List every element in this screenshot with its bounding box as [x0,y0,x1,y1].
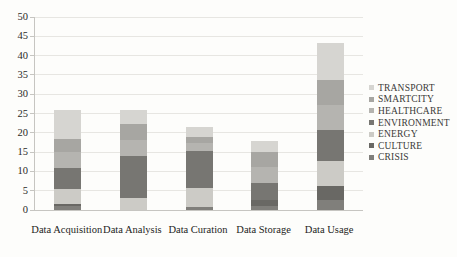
y-tick-mark-25 [30,113,34,114]
bar-segment-environment-5 [317,130,344,162]
legend-label-healthcare: HEALTHCARE [378,106,442,116]
y-axis-tick-label-5: 5 [2,186,28,196]
y-axis-tick-label-20: 20 [2,128,28,138]
y-tick-mark-20 [30,132,34,133]
y-tick-mark-45 [30,36,34,37]
legend-label-transport: TRANSPORT [378,83,435,93]
bar-segment-crisis-5 [317,200,344,210]
chart: TRANSPORTSMARTCITYHEALTHCAREENVIRONMENTE… [0,0,457,257]
y-axis-tick-label-0: 0 [2,205,28,215]
bar-segment-smartcity-5 [317,80,344,105]
bar-data-acquisition [54,110,81,210]
gridline-25 [35,113,363,114]
bar-segment-healthcare-2 [120,140,147,157]
y-tick-mark-40 [30,55,34,56]
legend-swatch-crisis [369,155,374,160]
legend-item-healthcare: HEALTHCARE [369,105,450,117]
y-tick-mark-10 [30,171,34,172]
legend-item-crisis: CRISIS [369,152,450,164]
legend-swatch-transport [369,85,374,90]
gridline-40 [35,55,363,56]
legend-swatch-environment [369,120,374,125]
bar-segment-healthcare-3 [186,143,213,151]
x-axis-label-data-usage: Data Usage [283,224,375,235]
bar-segment-culture-5 [317,186,344,200]
bar-segment-healthcare-4 [251,167,278,182]
legend-label-culture: CULTURE [378,141,422,151]
legend: TRANSPORTSMARTCITYHEALTHCAREENVIRONMENTE… [369,82,450,163]
bar-segment-healthcare-1 [54,152,81,167]
bar-segment-transport-2 [120,110,147,124]
gridline-45 [35,36,363,37]
legend-item-energy: ENERGY [369,128,450,140]
plot-area [34,17,363,211]
bar-segment-transport-4 [251,141,278,152]
y-axis-tick-label-35: 35 [2,70,28,80]
bar-segment-smartcity-2 [120,124,147,140]
bar-segment-crisis-1 [54,206,81,210]
gridline-35 [35,74,363,75]
legend-label-crisis: CRISIS [378,152,409,162]
bar-segment-transport-1 [54,110,81,139]
gridline-30 [35,94,363,95]
legend-item-environment: ENVIRONMENT [369,117,450,129]
bar-segment-healthcare-5 [317,105,344,130]
legend-item-smartcity: SMARTCITY [369,94,450,106]
legend-swatch-smartcity [369,97,374,102]
legend-label-environment: ENVIRONMENT [378,118,450,128]
y-axis-tick-label-50: 50 [2,12,28,22]
bar-data-usage [317,43,344,210]
gridline-50 [35,17,363,18]
bar-segment-energy-1 [54,189,81,204]
y-tick-mark-50 [30,17,34,18]
bar-segment-energy-5 [317,161,344,186]
bar-data-curation [186,127,213,210]
bar-segment-environment-1 [54,168,81,189]
bar-segment-energy-3 [186,188,213,207]
bar-segment-smartcity-4 [251,152,278,167]
legend-item-culture: CULTURE [369,140,450,152]
y-tick-mark-15 [30,152,34,153]
y-axis-tick-label-25: 25 [2,109,28,119]
bar-segment-crisis-4 [251,206,278,210]
bar-segment-crisis-3 [186,207,213,210]
bar-segment-transport-3 [186,127,213,137]
bar-data-analysis [120,110,147,210]
legend-swatch-culture [369,143,374,148]
y-axis-tick-label-15: 15 [2,147,28,157]
y-tick-mark-0 [30,210,34,211]
y-axis-tick-label-10: 10 [2,166,28,176]
bar-segment-environment-4 [251,183,278,201]
legend-swatch-healthcare [369,108,374,113]
y-tick-mark-30 [30,94,34,95]
bar-segment-environment-3 [186,151,213,188]
y-axis-tick-label-30: 30 [2,89,28,99]
bar-segment-transport-5 [317,43,344,80]
bar-segment-environment-2 [120,156,147,198]
y-axis-tick-label-45: 45 [2,31,28,41]
legend-item-transport: TRANSPORT [369,82,450,94]
bar-segment-smartcity-1 [54,139,81,153]
y-tick-mark-5 [30,190,34,191]
legend-label-energy: ENERGY [378,129,418,139]
bar-data-storage [251,141,278,210]
y-axis-tick-label-40: 40 [2,51,28,61]
legend-label-smartcity: SMARTCITY [378,94,434,104]
y-tick-mark-35 [30,74,34,75]
bar-segment-energy-2 [120,198,147,210]
legend-swatch-energy [369,132,374,137]
